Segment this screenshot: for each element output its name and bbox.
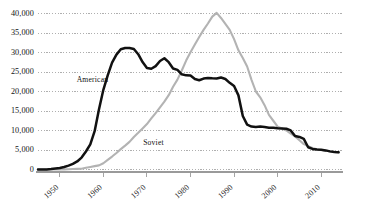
series-line-american — [38, 48, 339, 170]
x-axis-baseline — [36, 172, 343, 177]
y-tick-label: 0 — [30, 165, 34, 174]
x-tick-label: 1970 — [129, 183, 147, 201]
y-tick-label: 40,000 — [11, 9, 34, 18]
y-tick-label: 10,000 — [11, 126, 34, 135]
x-tick-label: 2010 — [303, 183, 321, 201]
annotation-american: American — [77, 75, 109, 84]
x-axis-tick-labels: 1950196019701980199020002010 — [42, 183, 322, 201]
x-tick-label: 1950 — [42, 183, 60, 201]
x-tick-label: 1990 — [216, 183, 234, 201]
x-tick-label: 1980 — [173, 183, 191, 201]
y-axis-tick-labels: 05,00010,00015,00020,00025,00030,00035,0… — [11, 9, 34, 174]
stockpile-line-chart: 05,00010,00015,00020,00025,00030,00035,0… — [0, 0, 365, 201]
y-tick-label: 25,000 — [11, 67, 34, 76]
y-tick-label: 15,000 — [11, 106, 34, 115]
gridlines — [38, 14, 343, 170]
y-tick-label: 5,000 — [15, 145, 34, 154]
series-annotations: AmericanSoviet — [77, 75, 165, 148]
annotation-soviet: Soviet — [143, 138, 164, 147]
y-tick-label: 35,000 — [11, 28, 34, 37]
y-tick-label: 30,000 — [11, 48, 34, 57]
x-tick-label: 2000 — [260, 183, 278, 201]
chart-canvas: 05,00010,00015,00020,00025,00030,00035,0… — [0, 0, 365, 201]
x-tick-label: 1960 — [86, 183, 104, 201]
y-tick-label: 20,000 — [11, 87, 34, 96]
